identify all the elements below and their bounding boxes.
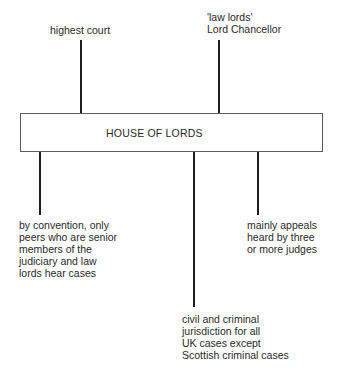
house-of-lords-box: HOUSE OF LORDS <box>20 113 323 152</box>
label-line: or more judges <box>247 243 317 255</box>
label-highest-court: highest court <box>50 24 110 36</box>
label-line: jurisdiction for all <box>182 325 289 337</box>
label-line: Scottish criminal cases <box>182 349 289 361</box>
label-line: Lord Chancellor <box>207 23 281 35</box>
label-convention: by convention, only peers who are senior… <box>19 219 117 279</box>
label-line: members of the <box>19 243 117 255</box>
house-of-lords-diagram: highest court 'law lords' Lord Chancello… <box>0 0 337 372</box>
connector-convention <box>39 152 41 215</box>
label-line: mainly appeals <box>247 219 317 231</box>
label-line: UK cases except <box>182 337 289 349</box>
label-appeals: mainly appeals heard by three or more ju… <box>247 219 317 255</box>
connector-highest-court <box>80 40 82 113</box>
label-line: peers who are senior <box>19 231 117 243</box>
connector-appeals <box>257 152 259 215</box>
label-line: by convention, only <box>19 219 117 231</box>
connector-law-lords <box>218 40 220 113</box>
label-line: 'law lords' <box>207 11 281 23</box>
house-of-lords-title: HOUSE OF LORDS <box>106 127 203 139</box>
label-law-lords: 'law lords' Lord Chancellor <box>207 11 281 35</box>
label-line: lords hear cases <box>19 267 117 279</box>
label-line: heard by three <box>247 231 317 243</box>
label-jurisdiction: civil and criminal jurisdiction for all … <box>182 313 289 361</box>
label-line: highest court <box>50 24 110 36</box>
label-line: civil and criminal <box>182 313 289 325</box>
label-line: judiciary and law <box>19 255 117 267</box>
connector-jurisdiction <box>193 152 195 307</box>
